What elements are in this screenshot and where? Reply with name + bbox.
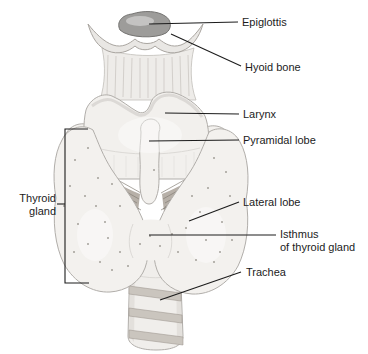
label-thyroid-gland: Thyroid gland bbox=[12, 192, 56, 218]
thyroid-illustration bbox=[0, 0, 368, 354]
label-isthmus-line2: of thyroid gland bbox=[280, 241, 355, 254]
label-hyoid-bone: Hyoid bone bbox=[245, 61, 301, 74]
label-trachea: Trachea bbox=[246, 266, 286, 279]
label-isthmus: Isthmus of thyroid gland bbox=[280, 228, 355, 254]
label-thyroid-gland-line2: gland bbox=[12, 205, 56, 218]
label-larynx: Larynx bbox=[243, 108, 276, 121]
highlight bbox=[77, 209, 113, 261]
thyrohyoid-membrane-shape bbox=[100, 48, 196, 100]
label-isthmus-line1: Isthmus bbox=[280, 228, 355, 241]
label-pyramidal-lobe: Pyramidal lobe bbox=[243, 134, 316, 147]
label-lateral-lobe: Lateral lobe bbox=[243, 196, 301, 209]
thyroid-diagram: Epiglottis Hyoid bone Larynx Pyramidal l… bbox=[0, 0, 368, 354]
label-thyroid-gland-line1: Thyroid bbox=[12, 192, 56, 205]
label-epiglottis: Epiglottis bbox=[242, 16, 287, 29]
isthmus-shape bbox=[125, 220, 177, 261]
highlight bbox=[118, 117, 182, 153]
